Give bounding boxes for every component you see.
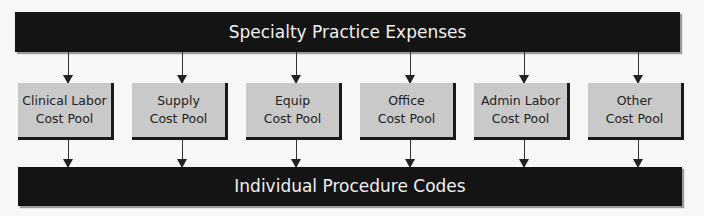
arrow-down-icon (524, 140, 525, 167)
pool-label-line2: Cost Pool (378, 110, 436, 128)
arrow-down-icon (296, 140, 297, 167)
specialty-practice-expenses-bar: Specialty Practice Expenses (15, 12, 680, 52)
admin-labor-cost-pool: Admin Labor Cost Pool (474, 83, 570, 140)
pool-label-line2: Cost Pool (36, 110, 94, 128)
arrow-down-icon (638, 52, 639, 83)
arrow-down-icon (182, 52, 183, 83)
pool-label-line1: Equip (275, 92, 310, 110)
pool-label-line1: Clinical Labor (22, 92, 106, 110)
individual-procedure-codes-bar: Individual Procedure Codes (18, 167, 682, 206)
office-cost-pool: Office Cost Pool (360, 83, 456, 140)
supply-cost-pool: Supply Cost Pool (132, 83, 228, 140)
bottom-bar-label: Individual Procedure Codes (18, 167, 682, 206)
arrow-down-icon (524, 52, 525, 83)
pool-label-line2: Cost Pool (492, 110, 550, 128)
arrow-down-icon (296, 52, 297, 83)
arrow-down-icon (410, 52, 411, 83)
pool-label-line1: Office (388, 92, 425, 110)
equip-cost-pool: Equip Cost Pool (246, 83, 342, 140)
pool-label-line2: Cost Pool (264, 110, 322, 128)
pool-label-line1: Admin Labor (481, 92, 560, 110)
arrow-down-icon (410, 140, 411, 167)
pool-label-line1: Supply (157, 92, 200, 110)
clinical-labor-cost-pool: Clinical Labor Cost Pool (18, 83, 114, 140)
arrow-down-icon (638, 140, 639, 167)
arrow-down-icon (68, 140, 69, 167)
arrow-down-icon (68, 52, 69, 83)
other-cost-pool: Other Cost Pool (588, 83, 684, 140)
pool-label-line2: Cost Pool (150, 110, 208, 128)
arrow-down-icon (182, 140, 183, 167)
pool-label-line1: Other (617, 92, 653, 110)
pool-label-line2: Cost Pool (606, 110, 664, 128)
top-bar-label: Specialty Practice Expenses (15, 12, 680, 52)
